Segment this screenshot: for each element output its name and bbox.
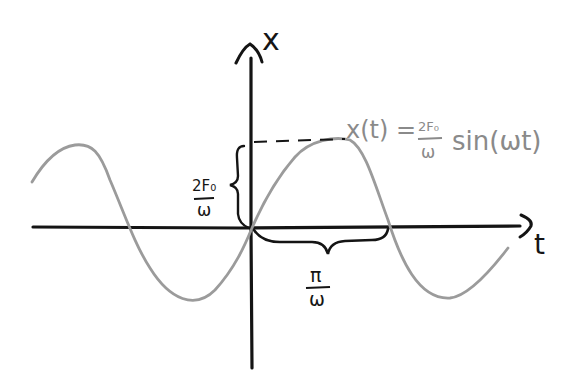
y-axis-arrowhead [236, 44, 262, 63]
half-period-label-denominator: ω [309, 288, 325, 310]
amplitude-dashed-line [254, 139, 345, 142]
y-axis-label: x [262, 22, 280, 57]
amplitude-label-numerator: 2F₀ [192, 177, 216, 195]
amplitude-brace [230, 146, 249, 228]
amplitude-label-denominator: ω [197, 200, 211, 220]
x-axis-arrowhead [520, 215, 531, 237]
equation-fraction-bar [418, 138, 442, 139]
half-period-brace [254, 229, 388, 254]
y-axis [251, 58, 252, 368]
sine-diagram: x t 2F₀ ω π ω x(t) = 2F₀ ω sin(ωt) [0, 0, 579, 384]
x-axis [33, 226, 520, 228]
x-axis-label: t [534, 228, 545, 261]
amplitude-label-fraction-bar [194, 198, 214, 199]
equation-lhs: x(t) = [346, 116, 416, 144]
equation-fraction-denominator: ω [421, 142, 435, 162]
half-period-label-numerator: π [310, 264, 321, 286]
equation-fraction-numerator: 2F₀ [418, 119, 439, 134]
sine-curve [32, 139, 508, 301]
equation-rhs: sin(ωt) [452, 126, 542, 156]
